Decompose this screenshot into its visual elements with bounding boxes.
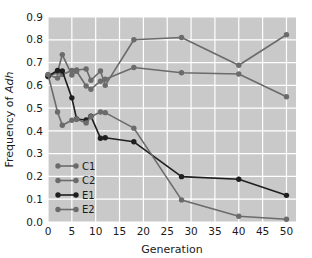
data-point-c2-3 [69,72,74,77]
data-point-e2-12 [284,217,289,222]
data-point-e2-7 [98,109,103,114]
x-axis-title: Generation [141,243,202,256]
data-point-e2-0 [45,72,50,77]
x-tick-label-8: 40 [232,225,245,237]
x-tick-label-10: 50 [280,225,293,237]
data-point-e1-9 [131,139,136,144]
y-axis-title: Frequency of Adh [3,72,16,168]
data-point-c1-9 [131,37,136,42]
data-point-c2-2 [60,52,65,57]
y-tick-label-4: 0.4 [26,125,43,137]
data-point-c2-6 [88,87,93,92]
y-tick-label-7: 0.7 [26,56,43,68]
x-tick-label-7: 35 [208,225,221,237]
data-point-e1-1 [55,68,60,73]
data-point-c1-10 [179,35,184,40]
data-point-c2-8 [103,76,108,81]
line-chart: 0.00.10.20.30.40.50.60.70.80.90510152025… [0,0,312,258]
data-point-e2-4 [74,116,79,121]
data-point-c1-8 [103,83,108,88]
legend-label-c2: C2 [82,175,95,186]
x-tick-label-9: 45 [256,225,269,237]
data-point-e1-8 [103,135,108,140]
legend-marker-start-e2 [55,207,60,212]
y-tick-label-3: 0.3 [26,147,43,159]
data-point-c2-7 [98,79,103,84]
data-point-e2-9 [131,125,136,130]
data-point-e1-11 [236,176,241,181]
legend-label-e1: E1 [82,190,95,201]
data-point-e2-6 [88,114,93,119]
data-point-e2-1 [55,109,60,114]
data-point-e2-10 [179,197,184,202]
legend-label-c1: C1 [82,161,95,172]
y-axis-title-plain: Frequency of [3,93,16,167]
data-point-c1-12 [284,32,289,37]
data-point-e1-2 [60,68,65,73]
x-tick-label-0: 0 [45,225,52,237]
data-point-c2-12 [284,94,289,99]
data-point-e1-3 [69,95,74,100]
legend-label-e2: E2 [82,204,95,215]
y-tick-label-5: 0.5 [26,102,43,114]
legend-marker-end-c1 [73,163,78,168]
data-point-c2-11 [236,71,241,76]
data-point-e1-10 [179,174,184,179]
x-tick-label-2: 10 [89,225,102,237]
data-point-e2-2 [60,122,65,127]
data-point-c2-10 [179,70,184,75]
y-axis-title-italic: Adh [3,72,16,95]
y-tick-label-6: 0.6 [26,79,43,91]
x-tick-label-5: 25 [161,225,174,237]
data-point-e2-3 [69,117,74,122]
data-point-c1-6 [88,78,93,83]
x-tick-label-1: 5 [69,225,76,237]
x-tick-label-4: 20 [137,225,150,237]
legend-marker-end-e1 [73,192,78,197]
y-axis-tick-labels: 0.00.10.20.30.40.50.60.70.80.9 [26,11,43,228]
data-point-c2-4 [74,69,79,74]
data-point-e2-11 [236,214,241,219]
data-point-e1-12 [284,193,289,198]
legend-marker-start-c1 [55,163,60,168]
x-axis-tick-labels: 05101520253035404550 [45,225,293,237]
y-tick-label-9: 0.9 [26,11,43,23]
legend-marker-end-c2 [73,178,78,183]
data-point-c1-11 [236,63,241,68]
data-point-c1-5 [83,66,88,71]
data-point-e2-8 [103,110,108,115]
x-tick-label-3: 15 [113,225,126,237]
y-tick-label-8: 0.8 [26,33,43,45]
x-tick-label-6: 30 [184,225,197,237]
data-point-e2-5 [83,120,88,125]
chart-figure: 0.00.10.20.30.40.50.60.70.80.90510152025… [0,0,312,258]
legend-marker-end-e2 [73,207,78,212]
y-tick-label-1: 0.1 [26,193,43,205]
data-point-c1-1 [55,75,60,80]
data-point-c1-7 [98,68,103,73]
legend-marker-start-c2 [55,178,60,183]
y-tick-label-2: 0.2 [26,170,43,182]
data-point-e1-7 [98,135,103,140]
legend-marker-start-e1 [55,192,60,197]
data-point-c2-5 [83,83,88,88]
y-tick-label-0: 0.0 [26,216,43,228]
data-point-c2-9 [131,65,136,70]
